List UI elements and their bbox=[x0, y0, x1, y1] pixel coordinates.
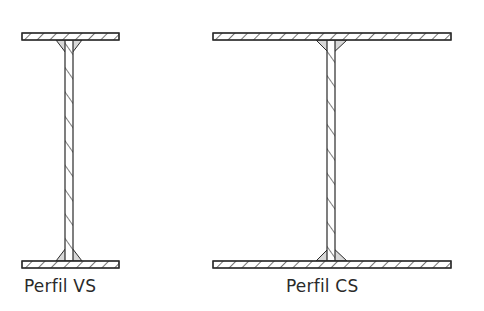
profile-label-cs: Perfil CS bbox=[286, 276, 358, 296]
profile-vs bbox=[22, 33, 119, 268]
i-beam-diagram bbox=[0, 0, 484, 311]
profile-label-vs: Perfil VS bbox=[24, 276, 96, 296]
profile-cs bbox=[213, 33, 451, 268]
